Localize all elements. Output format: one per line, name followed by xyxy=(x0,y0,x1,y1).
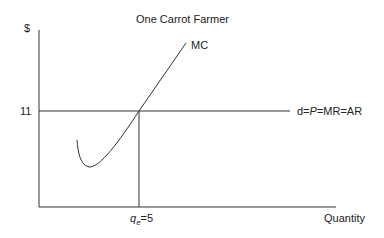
demand-p: P xyxy=(310,105,317,117)
chart-canvas xyxy=(0,0,384,238)
qe-tick-label: qe=5 xyxy=(130,212,153,227)
y-axis-label: $ xyxy=(24,22,30,34)
chart-title: One Carrot Farmer xyxy=(136,13,229,25)
q-value: =5 xyxy=(141,212,154,224)
demand-label: d=P=MR=AR xyxy=(297,105,362,117)
mc-curve xyxy=(77,43,186,167)
demand-suffix: =MR=AR xyxy=(317,105,362,117)
demand-prefix: d= xyxy=(297,105,310,117)
x-axis-label: Quantity xyxy=(324,212,365,224)
price-tick-label: 11 xyxy=(20,105,31,117)
mc-label: MC xyxy=(191,39,208,51)
